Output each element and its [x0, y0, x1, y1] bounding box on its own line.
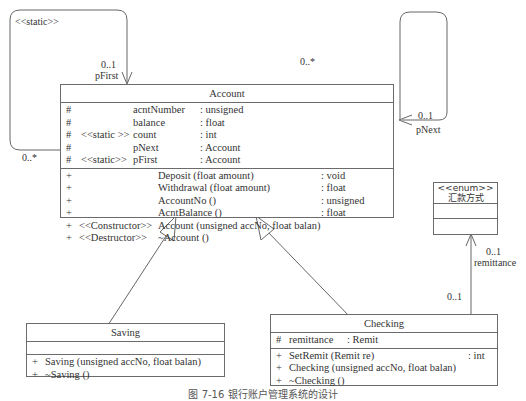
figure-caption: 图 7-16 银行账户管理系统的设计: [0, 386, 526, 401]
operation-row: +<<Destructor>>~Account (): [61, 232, 393, 245]
enum-operations-section: [434, 219, 497, 233]
class-enum-remit[interactable]: <<enum>> 汇款方式: [433, 182, 498, 235]
class-title: Checking: [271, 315, 497, 333]
static-stereotype-label: <<static>>: [15, 16, 59, 27]
operation-row: +~Saving (): [27, 369, 224, 382]
attributes-section: #remittance: Remit: [271, 333, 497, 349]
class-account[interactable]: Account #acntNumber: unsigned #balance: …: [60, 84, 394, 218]
pnext-multiplicity: 0..1: [418, 110, 433, 121]
operation-row: +<<Constructor>>Account (unsigned accNo,…: [61, 220, 393, 233]
operations-section: +SetRemit (Remit re): int +Checking (uns…: [271, 349, 497, 389]
operation-row: +AccountNo (): unsigned: [61, 195, 393, 208]
class-checking[interactable]: Checking #remittance: Remit +SetRemit (R…: [270, 314, 498, 386]
pfirst-source-multiplicity: 0..*: [22, 152, 37, 163]
class-title: Account: [61, 85, 393, 103]
pnext-source-multiplicity: 0..*: [300, 56, 315, 67]
class-saving[interactable]: Saving +Saving (unsigned accNo, float ba…: [26, 323, 225, 377]
attribute-row: #balance: float: [61, 117, 393, 130]
operations-section: +Saving (unsigned accNo, float balan) +~…: [27, 355, 224, 382]
remittance-role: remittance: [474, 257, 516, 268]
checking-end-multiplicity: 0..1: [447, 291, 462, 302]
operation-row: +Saving (unsigned accNo, float balan): [27, 356, 224, 369]
enum-name: 汇款方式: [434, 193, 497, 203]
operations-section: +Deposit (float amount): void +Withdrawa…: [61, 169, 393, 246]
enum-header: <<enum>> 汇款方式: [434, 183, 497, 204]
pnext-role: pNext: [416, 124, 440, 135]
attribute-row: #pNext: Account: [61, 142, 393, 155]
operation-row: +Withdrawal (float amount): float: [61, 182, 393, 195]
attributes-section: [27, 342, 224, 355]
operation-row: +Checking (unsigned accNo, float balan): [271, 362, 497, 375]
class-title: Saving: [27, 324, 224, 342]
attribute-row: #acntNumber: unsigned: [61, 104, 393, 117]
operation-row: +Deposit (float amount): void: [61, 170, 393, 183]
operation-row: +AcntBalance (): float: [61, 207, 393, 220]
pfirst-multiplicity: 0..1: [101, 59, 116, 70]
attribute-row: #<<static>>pFirst: Account: [61, 154, 393, 167]
attribute-row: #<<static >>count: int: [61, 129, 393, 142]
enum-attributes-section: [434, 204, 497, 219]
enum-stereotype: <<enum>>: [434, 183, 497, 193]
pfirst-role: pFirst: [95, 70, 118, 81]
remittance-multiplicity: 0..1: [486, 246, 501, 257]
attributes-section: #acntNumber: unsigned #balance: float #<…: [61, 103, 393, 169]
attribute-row: #remittance: Remit: [271, 334, 497, 347]
operation-row: +SetRemit (Remit re): int: [271, 350, 497, 363]
